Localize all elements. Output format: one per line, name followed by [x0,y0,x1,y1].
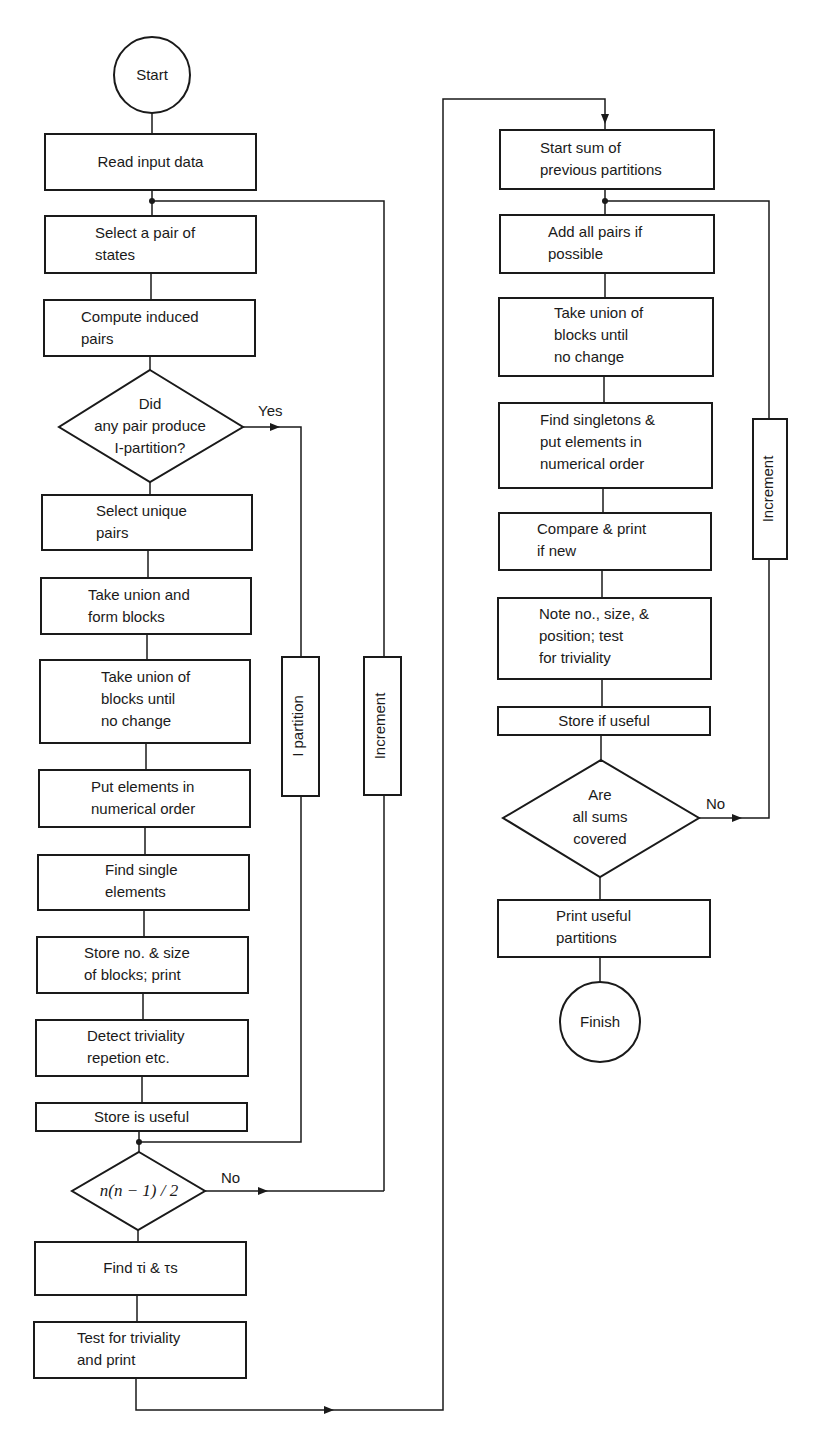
start-label: Start [114,64,190,86]
find-single-label: Find single elements [105,859,245,903]
start-sum-label: Start sum of previous partitions [540,137,710,181]
increment-right-label: Increment [759,439,781,539]
find-tau-label: Find τi & τs [35,1257,246,1279]
decision-ipartition-label: Did any pair produce I-partition? [70,393,230,459]
print-useful-label: Print useful partitions [556,905,706,949]
compute-induced-label: Compute induced pairs [81,306,251,350]
take-union-blocks-label: Take union of blocks until no change [101,666,241,732]
no-label-left: No [221,1167,240,1189]
take-union-form-label: Take union and form blocks [88,584,248,628]
put-elements-label: Put elements in numerical order [91,776,246,820]
flowchart-diagram: Start Read input data Select a pair of s… [0,0,821,1446]
store-no-size-label: Store no. & size of blocks; print [84,942,244,986]
i-partition-label: I partition [289,676,311,776]
finish-label: Finish [560,1011,640,1033]
decision-n-label: n(n − 1) / 2 [80,1180,198,1202]
select-unique-label: Select unique pairs [96,500,246,544]
store-useful-label: Store is useful [36,1106,247,1128]
decision-sums-label: Are all sums covered [540,784,660,850]
yes-label: Yes [258,400,282,422]
no-label-right: No [706,793,725,815]
compare-print-label: Compare & print if new [537,518,707,562]
select-pair-label: Select a pair of states [95,222,255,266]
find-singletons-label: Find singletons & put elements in numeri… [540,409,710,475]
store-if-useful-label: Store if useful [498,710,710,732]
read-input-label: Read input data [45,151,256,173]
take-union-right-label: Take union of blocks until no change [554,302,704,368]
test-triviality-label: Test for triviality and print [77,1327,242,1371]
add-pairs-label: Add all pairs if possible [548,221,708,265]
note-no-size-label: Note no., size, & position; test for tri… [539,603,709,669]
detect-triviality-label: Detect triviality repetion etc. [87,1025,242,1069]
increment-left-label: Increment [371,676,393,776]
